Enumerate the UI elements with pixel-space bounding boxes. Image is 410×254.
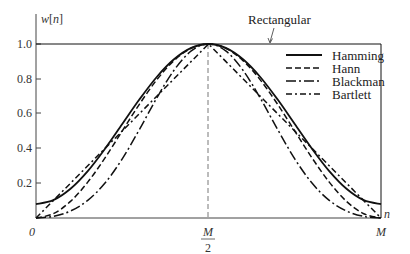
x-tick-origin: 0 xyxy=(29,225,35,239)
curve-hamming xyxy=(36,44,381,204)
y-tick-label: 0.4 xyxy=(17,141,32,155)
rectangular-annotation: Rectangular xyxy=(248,12,311,43)
legend-item-bartlett: Bartlett xyxy=(286,87,371,102)
svg-text:M: M xyxy=(202,225,214,239)
svg-text:Bartlett: Bartlett xyxy=(332,87,371,102)
y-tick-label: 0.8 xyxy=(17,72,32,86)
curves xyxy=(36,44,381,218)
curve-bartlett xyxy=(36,44,381,218)
y-ticks: 1.0 0.8 0.6 0.4 0.2 xyxy=(17,37,41,190)
svg-text:w[n]: w[n] xyxy=(41,12,63,26)
curve-hann xyxy=(36,44,381,218)
y-tick-label: 0.6 xyxy=(17,106,32,120)
y-axis-label: w[n] xyxy=(41,12,63,26)
svg-text:2: 2 xyxy=(205,241,211,254)
legend: Hamming Hann Blackman Bartlett xyxy=(286,48,385,102)
x-axis-label: n xyxy=(384,207,390,221)
curve-rectangular xyxy=(36,44,381,218)
x-tick-mid: M 2 xyxy=(201,225,215,254)
window-functions-chart: 1.0 0.8 0.6 0.4 0.2 w[n] 0 n M 2 M Recta… xyxy=(0,0,410,254)
curve-blackman xyxy=(36,44,381,218)
svg-text:Rectangular: Rectangular xyxy=(248,12,311,27)
y-tick-label: 1.0 xyxy=(17,37,32,51)
x-tick-end: M xyxy=(375,225,387,239)
y-tick-label: 0.2 xyxy=(17,176,32,190)
